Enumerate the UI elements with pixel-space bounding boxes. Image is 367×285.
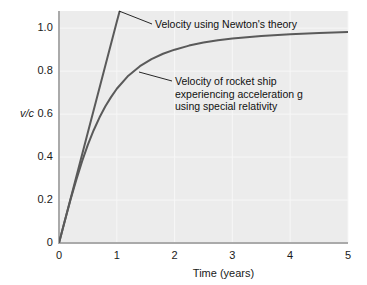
figure-container: v/c Time (years) 00.20.40.60.81.0 012345… [0, 0, 367, 285]
newton-annotation: Velocity using Newton's theory [155, 18, 297, 31]
y-axis-label: v/c [20, 107, 34, 119]
x-tick-label: 4 [275, 249, 305, 261]
relativity-annotation: Velocity of rocket shipexperiencing acce… [175, 75, 303, 113]
relativity-annotation-line: experiencing acceleration g [175, 88, 303, 101]
x-tick-label: 1 [102, 249, 132, 261]
x-tick-label: 0 [44, 249, 74, 261]
y-tick-label: 0 [47, 236, 53, 248]
y-tick-label: 0.4 [37, 150, 53, 162]
relativity-annotation-line: using special relativity [175, 100, 303, 113]
x-tick-label: 3 [217, 249, 247, 261]
x-tick-label: 5 [333, 249, 363, 261]
y-tick-label: 0.6 [37, 107, 53, 119]
x-tick-label: 2 [160, 249, 190, 261]
newton-annotation-line: Velocity using Newton's theory [155, 18, 297, 31]
plot-area-background [59, 11, 348, 243]
y-tick-label: 1.0 [37, 21, 53, 33]
y-tick-label: 0.8 [37, 64, 53, 76]
x-axis-label: Time (years) [0, 267, 367, 279]
y-tick-label: 0.2 [37, 193, 53, 205]
relativity-annotation-line: Velocity of rocket ship [175, 75, 303, 88]
chart-plot [0, 0, 367, 285]
